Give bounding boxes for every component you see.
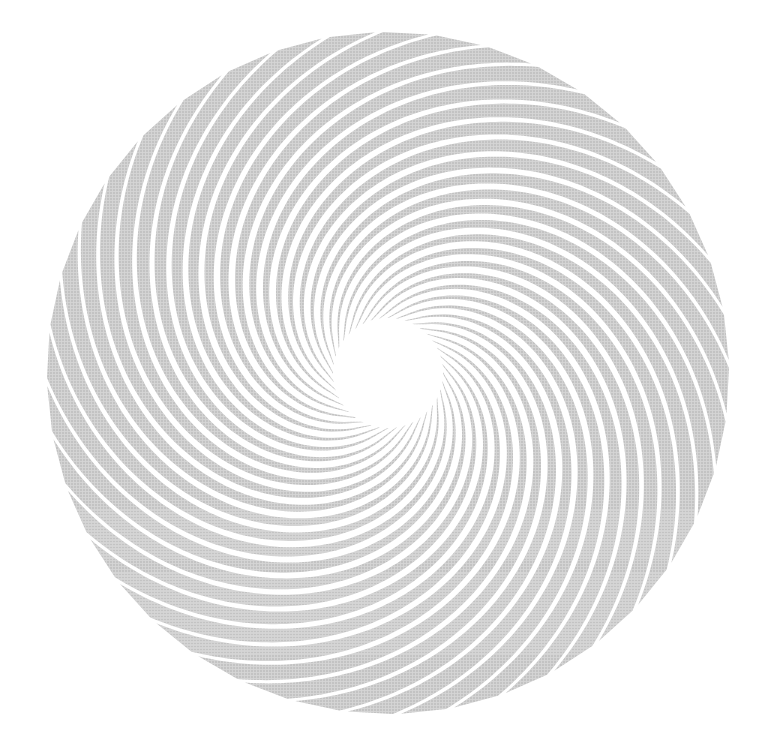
spiral-rosette-graphic	[0, 0, 777, 751]
center-hole-circle	[333, 318, 443, 428]
figure-canvas	[0, 0, 777, 751]
